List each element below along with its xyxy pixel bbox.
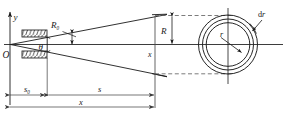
half-angle-label: θ	[39, 42, 44, 52]
screen-radius-label: R	[160, 26, 167, 36]
aperture-plates-group	[22, 30, 47, 58]
beam-waist-radius-label: R0	[50, 20, 60, 31]
radius-r-arrow	[221, 38, 242, 53]
dimension-x-label: x	[78, 97, 83, 107]
diagram-canvas: O y x R0 θ R r dr s0 s x	[0, 0, 285, 126]
dimension-s-label: s	[98, 84, 102, 94]
origin-label: O	[3, 50, 10, 60]
cross-section-group	[199, 8, 263, 84]
dimension-s0-label: s0	[24, 84, 30, 95]
aperture-upper-plate	[22, 30, 47, 37]
ring-thickness-label: dr	[258, 10, 266, 19]
y-axis-label: y	[13, 12, 18, 22]
optics-diagram-figure: O y x R0 θ R r dr s0 s x	[0, 0, 285, 126]
beam-cone-group	[11, 14, 168, 77]
upper-ray-cap	[152, 14, 167, 15]
lower-edge-ray	[11, 45, 168, 77]
x-axis-label: x	[147, 50, 152, 59]
aperture-lower-plate	[22, 51, 47, 58]
ring-radius-label: r	[220, 30, 224, 39]
upper-edge-ray	[11, 15, 168, 45]
